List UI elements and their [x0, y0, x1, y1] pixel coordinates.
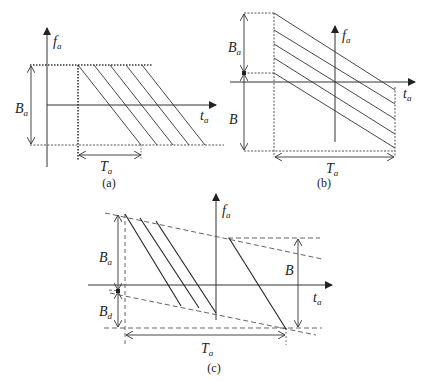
caption-b: (b) — [317, 176, 331, 190]
caption-a: (a) — [102, 176, 115, 190]
b-label-c: B — [285, 263, 294, 278]
caption-c: (c) — [207, 361, 220, 375]
fa-label-a: fa — [53, 34, 62, 51]
fa-label-c: fa — [222, 203, 231, 220]
upper-envelope-c — [105, 213, 322, 259]
panel-b: fa ta Ba B Ta (b) — [228, 13, 415, 190]
ba-label-c: Ba — [99, 250, 113, 267]
fa-label-b: fa — [342, 28, 351, 45]
lower-envelope-c — [110, 293, 316, 335]
ta-label-c: ta — [313, 290, 322, 307]
junction-marker-c — [116, 289, 120, 293]
chirps-c — [125, 214, 286, 329]
b-label-b: B — [229, 112, 238, 127]
ta-duration-label-a: Ta — [100, 159, 113, 176]
ta-label-b: ta — [403, 86, 412, 103]
ta-duration-label-c: Ta — [201, 341, 214, 358]
figure: fa ta Ba Ta (a) fa ta — [0, 0, 429, 382]
panel-c: fa ta Ba Bd B Ta (c) — [88, 194, 332, 375]
bd-label-c: Bd — [99, 304, 113, 321]
ba-label-a: Ba — [15, 101, 29, 118]
ta-label-a: ta — [200, 108, 209, 125]
ba-label-b: Ba — [228, 40, 242, 57]
junction-marker-b — [242, 71, 246, 75]
panel-a: fa ta Ba Ta (a) — [15, 28, 224, 190]
